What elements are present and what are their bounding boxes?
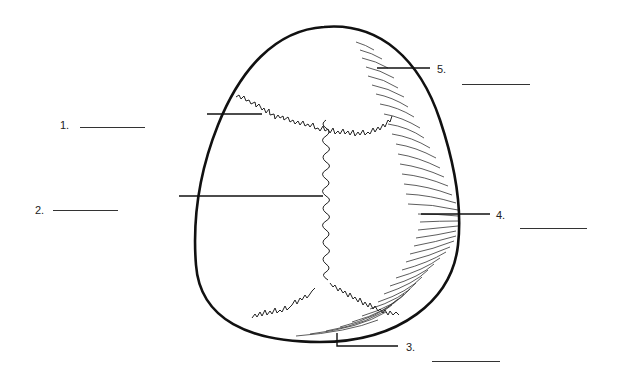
label-1: 1. bbox=[60, 120, 69, 131]
shading-hatching bbox=[296, 42, 458, 336]
answer-blank-4[interactable] bbox=[520, 228, 587, 229]
answer-blank-1[interactable] bbox=[80, 127, 145, 128]
answer-blank-3[interactable] bbox=[432, 361, 500, 362]
label-5: 5. bbox=[437, 64, 446, 75]
label-2: 2. bbox=[35, 205, 44, 216]
answer-blank-2[interactable] bbox=[53, 210, 118, 211]
answer-blank-5[interactable] bbox=[462, 84, 530, 85]
skull-outline bbox=[195, 27, 459, 342]
label-4: 4. bbox=[496, 210, 505, 221]
coronal-suture bbox=[236, 95, 392, 136]
label-3: 3. bbox=[406, 342, 415, 353]
sagittal-suture bbox=[323, 120, 330, 280]
skull-superior-view-diagram bbox=[0, 0, 618, 379]
